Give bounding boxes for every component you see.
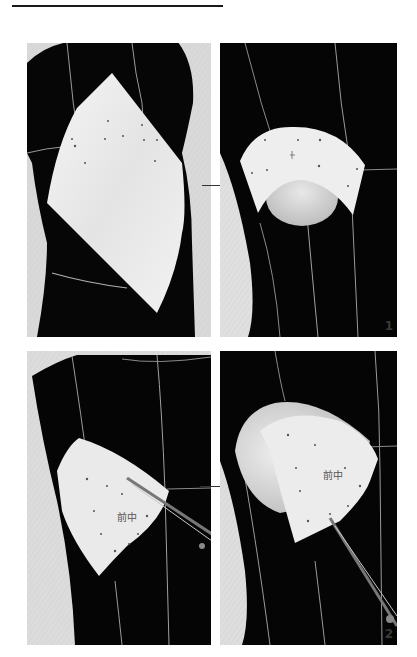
photo-panel-cup-shaping: 1 [220,43,397,337]
dress-form-cup-image [220,43,397,337]
dress-form-with-muslin-image [27,43,211,337]
photo-panel-trimming: 前中 [27,351,211,645]
dress-form-trimming-image: 前中 [27,351,211,645]
dress-form-clipping-image: 前中 [220,351,397,645]
muslin-marking-text: 前中 [117,511,137,523]
top-rule-divider [12,5,223,7]
photo-panel-draping-start [27,43,211,337]
photo-panel-clipping: 前中 2 [220,351,397,645]
muslin-marking-text: 前中 [323,469,343,481]
step-number-label: 1 [385,319,393,333]
step-number-label: 2 [385,627,393,641]
